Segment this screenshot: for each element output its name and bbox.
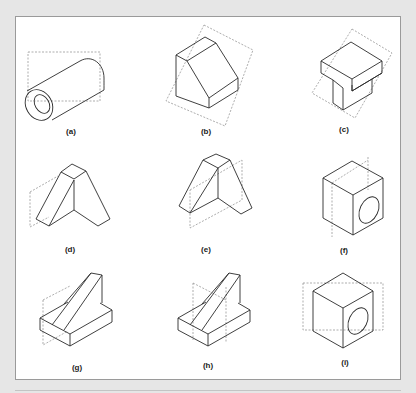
figure-f-label: (f) xyxy=(340,246,348,255)
figure-b-label: (b) xyxy=(201,127,211,136)
figure-h-drawing xyxy=(178,273,250,346)
figure-d-label: (d) xyxy=(65,245,75,254)
figure-a-drawing xyxy=(20,52,104,125)
figure-c-label: (c) xyxy=(339,125,349,134)
figure-drawings xyxy=(0,0,416,393)
figure-a-label: (a) xyxy=(66,127,76,136)
figure-d-drawing xyxy=(30,164,110,227)
figure-b-drawing xyxy=(166,25,253,126)
figure-g-label: (g) xyxy=(72,363,82,372)
figure-i-label: (i) xyxy=(341,358,349,367)
figure-g-drawing xyxy=(40,273,112,346)
figure-h-label: (h) xyxy=(203,361,213,370)
figure-e-drawing xyxy=(179,154,252,228)
figure-e-label: (e) xyxy=(201,245,211,254)
figure-f-drawing xyxy=(323,157,383,237)
figure-i-drawing xyxy=(303,273,383,348)
figure-c-drawing xyxy=(312,29,392,118)
